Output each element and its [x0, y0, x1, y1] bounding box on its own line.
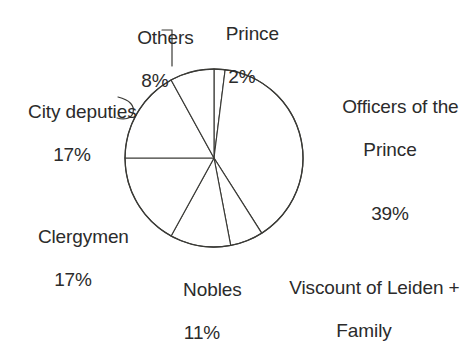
slice-label-nobles-percent: 11% [150, 322, 254, 341]
slice-label-nobles: Nobles 11% [150, 258, 254, 341]
slice-label-officers-line2: Prince [306, 139, 474, 160]
slice-label-city-deputies: City deputies 17% [2, 80, 142, 208]
slice-label-officers-of-the-prince: Officers of the Prince 39% [306, 75, 474, 266]
slice-label-city-deputies-name: City deputies [28, 101, 137, 122]
pie-chart-figure: Others 8% Prince 2% City deputies 17% Of… [0, 0, 476, 341]
slice-label-clergymen-percent: 17% [4, 269, 142, 290]
slice-label-officers-line1: Officers of the [342, 96, 458, 117]
slice-label-officers-percent: 39% [306, 203, 474, 224]
slice-label-nobles-name: Nobles [183, 279, 242, 300]
slice-label-others-name: Others [137, 27, 193, 48]
slice-label-clergymen-name: Clergymen [38, 226, 129, 247]
slice-label-prince: Prince 2% [200, 2, 284, 130]
slice-label-city-deputies-percent: 17% [2, 144, 142, 165]
slice-label-prince-percent: 2% [200, 66, 284, 87]
slice-label-viscount-line1: Viscount of Leiden + [289, 277, 459, 298]
slice-label-clergymen: Clergymen 17% [4, 205, 142, 333]
slice-label-viscount-line2: Family [252, 320, 476, 341]
slice-label-viscount-of-leiden-family: Viscount of Leiden + Family 6% [252, 256, 476, 341]
slice-label-prince-name: Prince [226, 23, 279, 44]
